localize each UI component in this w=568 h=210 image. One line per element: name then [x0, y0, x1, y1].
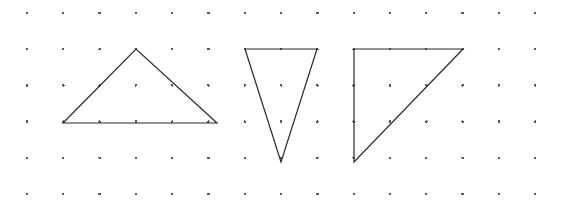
grid-dot: [207, 84, 210, 87]
grid-dot: [207, 48, 210, 51]
grid-dot: [425, 12, 428, 15]
grid-dot: [207, 193, 210, 196]
grid-dot: [425, 193, 428, 196]
grid-dot: [534, 84, 537, 87]
grid-dot: [26, 12, 29, 15]
grid-dot: [62, 12, 65, 15]
grid-dot: [316, 193, 319, 196]
grid-dot: [316, 12, 319, 15]
figure-canvas: [0, 0, 568, 210]
grid-dot: [316, 120, 319, 123]
grid-dot: [461, 120, 464, 123]
grid-dot: [135, 12, 138, 15]
grid-dot: [171, 193, 174, 196]
grid-dot: [461, 157, 464, 160]
grid-dot: [280, 120, 283, 123]
grid-dot: [98, 157, 101, 160]
grid-dot: [498, 84, 501, 87]
grid-dot: [26, 157, 29, 160]
grid-dot: [534, 120, 537, 123]
grid-dot: [461, 84, 464, 87]
grid-dot: [352, 193, 355, 196]
grid-dot: [352, 12, 355, 15]
grid-dot: [62, 84, 65, 87]
grid-dot: [98, 12, 101, 15]
grid-dot: [389, 157, 392, 160]
grid-dot: [135, 157, 138, 160]
grid-dot: [534, 157, 537, 160]
grid-dot: [280, 193, 283, 196]
grid-dot: [461, 193, 464, 196]
dot-grid-figure: [0, 0, 568, 210]
grid-dot: [135, 84, 138, 87]
grid-dot: [425, 157, 428, 160]
grid-dot: [498, 12, 501, 15]
grid-dot: [498, 120, 501, 123]
grid-dot: [534, 12, 537, 15]
grid-dot: [316, 157, 319, 160]
grid-dot: [171, 84, 174, 87]
grid-dot: [461, 12, 464, 15]
grid-dot: [534, 48, 537, 51]
grid-dot: [280, 12, 283, 15]
grid-dot: [26, 120, 29, 123]
grid-dot: [244, 84, 247, 87]
grid-dot: [425, 120, 428, 123]
grid-dot: [26, 48, 29, 51]
grid-dot: [534, 193, 537, 196]
grid-dot: [62, 48, 65, 51]
grid-dot: [62, 193, 65, 196]
grid-dot: [498, 193, 501, 196]
grid-dot: [389, 12, 392, 15]
grid-dot: [389, 193, 392, 196]
grid-dot: [171, 157, 174, 160]
grid-dot: [135, 193, 138, 196]
grid-dot: [26, 84, 29, 87]
grid-dot: [171, 48, 174, 51]
grid-dot: [280, 84, 283, 87]
grid-dot: [244, 157, 247, 160]
grid-dot: [62, 157, 65, 160]
grid-dot: [389, 120, 392, 123]
grid-dot: [498, 157, 501, 160]
grid-dot: [316, 84, 319, 87]
grid-dot: [207, 157, 210, 160]
grid-dot: [244, 12, 247, 15]
grid-dot: [498, 48, 501, 51]
grid-dot: [98, 48, 101, 51]
figure-background: [0, 0, 568, 210]
grid-dot: [244, 120, 247, 123]
grid-dot: [171, 12, 174, 15]
grid-dot: [207, 12, 210, 15]
grid-dot: [389, 84, 392, 87]
grid-dot: [98, 193, 101, 196]
grid-dot: [244, 193, 247, 196]
grid-dot: [26, 193, 29, 196]
